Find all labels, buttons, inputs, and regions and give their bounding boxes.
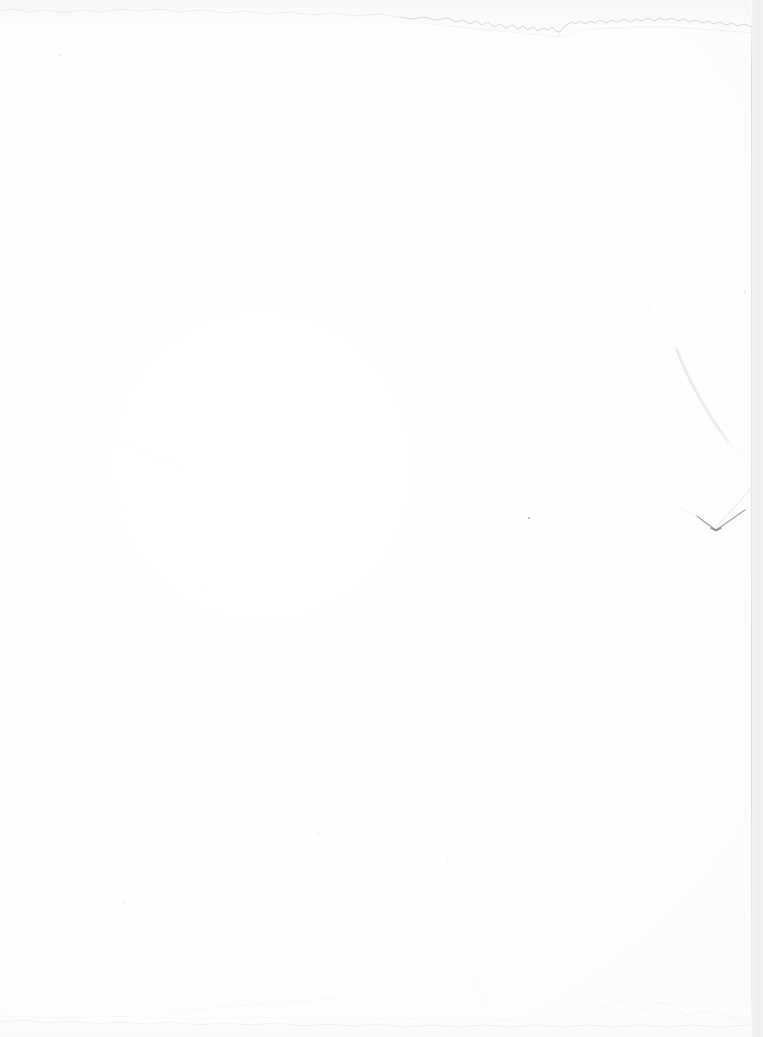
scanned-page-image [0,0,763,1037]
outside-background-strip [752,0,763,1037]
paper-tone-gradient [0,0,752,1037]
paper-sheet [0,0,752,1037]
right-page-edge [751,0,752,1037]
